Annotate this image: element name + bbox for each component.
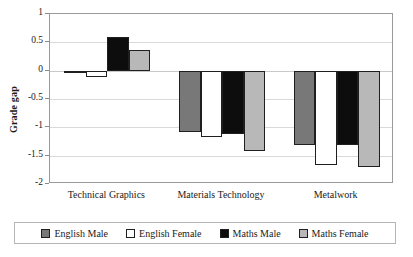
y-tick-label: 1: [3, 8, 43, 18]
bar-maths-male-1: [222, 71, 244, 134]
gridline: [50, 42, 392, 43]
gridline: [50, 156, 392, 157]
bar-maths-female-1: [244, 71, 266, 151]
bar-maths-female-0: [129, 50, 151, 71]
legend-swatch-icon: [220, 229, 229, 238]
bar-maths-male-2: [337, 71, 359, 146]
bar-english-female-0: [86, 71, 108, 77]
legend-item-english-male[interactable]: English Male: [41, 228, 108, 239]
bar-english-female-2: [315, 71, 337, 165]
chart-legend: English MaleEnglish FemaleMaths MaleMath…: [14, 222, 396, 244]
bar-english-male-1: [179, 71, 201, 132]
bar-english-female-1: [201, 71, 223, 137]
legend-item-maths-female[interactable]: Maths Female: [299, 228, 369, 239]
legend-label: Maths Male: [233, 228, 281, 239]
x-category-label-2: Metalwork: [266, 189, 406, 200]
y-tick-mark: [45, 183, 49, 184]
y-tick-label: -1.5: [3, 150, 43, 160]
y-tick-label: 0: [3, 65, 43, 75]
legend-swatch-icon: [126, 229, 135, 238]
legend-item-maths-male[interactable]: Maths Male: [220, 228, 281, 239]
bar-maths-male-0: [107, 37, 129, 71]
legend-swatch-icon: [41, 229, 50, 238]
legend-label: English Male: [54, 228, 108, 239]
bar-english-male-0: [64, 71, 86, 73]
legend-label: Maths Female: [312, 228, 369, 239]
legend-item-english-female[interactable]: English Female: [126, 228, 202, 239]
plot-area: [49, 13, 393, 183]
grade-gap-bar-chart: Grade gap 10.50-0.5-1-1.5-2 Technical Gr…: [0, 0, 413, 257]
y-axis-title: Grade gap: [8, 65, 19, 155]
y-tick-label: 0.5: [3, 36, 43, 46]
y-tick-label: -0.5: [3, 93, 43, 103]
y-tick-label: -2: [3, 178, 43, 188]
y-tick-label: -1: [3, 121, 43, 131]
legend-swatch-icon: [299, 229, 308, 238]
bar-maths-female-2: [358, 71, 380, 167]
bar-english-male-2: [294, 71, 316, 146]
legend-label: English Female: [139, 228, 202, 239]
